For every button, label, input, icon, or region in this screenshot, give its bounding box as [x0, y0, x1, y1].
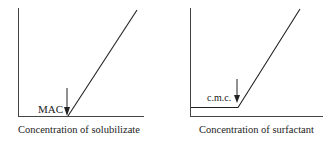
x-axis-label-left: Concentration of solubilizate — [18, 124, 140, 135]
mac-label: MAC — [38, 103, 63, 115]
figure: MAC Concentration of solubilizate c.m.c.… — [0, 0, 335, 143]
cmc-label: c.m.c. — [207, 92, 231, 103]
rising-line — [68, 10, 137, 116]
cmc-arrow-icon — [234, 79, 240, 103]
x-axis-label-right: Concentration of surfactant — [199, 124, 314, 135]
mac-arrow-icon — [64, 88, 70, 116]
panel-left: MAC Concentration of solubilizate — [18, 8, 144, 135]
panel-right: c.m.c. Concentration of surfactant — [190, 8, 323, 135]
